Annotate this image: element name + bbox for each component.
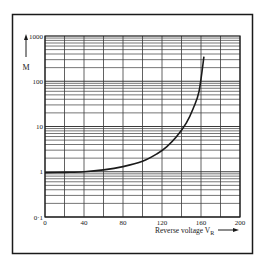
y-tick-label: 100 bbox=[33, 78, 44, 86]
x-tick-label: 80 bbox=[120, 219, 128, 227]
x-axis-label-group: Reverse voltage VR bbox=[155, 226, 239, 236]
data-curve bbox=[45, 57, 204, 173]
x-tick-label: 0 bbox=[43, 219, 47, 227]
y-tick-label: 1 bbox=[40, 168, 44, 176]
x-tick-label: 200 bbox=[235, 219, 246, 227]
y-tick-labels: 0·11101001000 bbox=[29, 33, 44, 222]
y-tick-label: 0·1 bbox=[34, 214, 44, 222]
grid bbox=[45, 36, 240, 217]
x-axis-label: Reverse voltage VR bbox=[155, 226, 214, 236]
y-axis-label: M bbox=[22, 63, 29, 72]
y-tick-label: 10 bbox=[36, 123, 44, 131]
x-tick-label: 40 bbox=[81, 219, 89, 227]
x-tick-labels: 04080120160200 bbox=[43, 219, 246, 227]
x-axis-arrowhead-icon bbox=[233, 228, 239, 232]
y-axis-arrowhead-icon bbox=[24, 34, 28, 40]
chart: 0·11101001000 04080120160200 M Reverse v… bbox=[0, 0, 264, 263]
y-tick-label: 1000 bbox=[29, 33, 44, 41]
outer-frame bbox=[13, 15, 253, 254]
